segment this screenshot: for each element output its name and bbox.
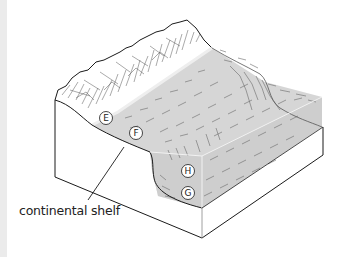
- label-E: E: [100, 112, 113, 125]
- svg-text:G: G: [185, 188, 192, 198]
- continental-shelf-label: continental shelf: [19, 203, 120, 218]
- label-G: G: [182, 187, 195, 200]
- label-F: F: [130, 127, 143, 140]
- svg-text:E: E: [103, 113, 109, 123]
- svg-text:H: H: [185, 166, 192, 176]
- svg-text:F: F: [133, 128, 138, 138]
- ocean-floor-block-diagram: E F H G: [0, 0, 341, 257]
- label-H: H: [182, 165, 195, 178]
